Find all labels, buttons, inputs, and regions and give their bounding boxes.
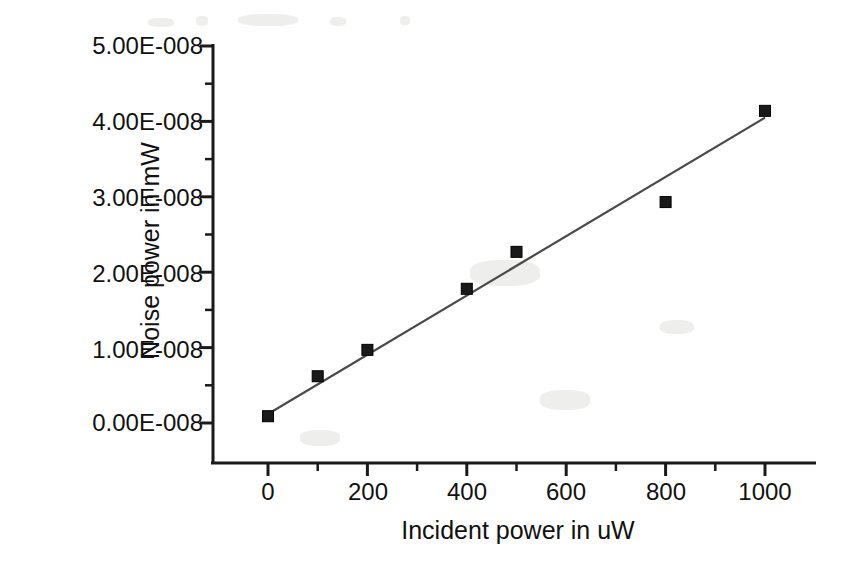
- linear-fit-line: [268, 118, 765, 414]
- data-point-marker: [461, 283, 472, 294]
- x-tick-marks: [268, 463, 765, 476]
- data-point-marker: [760, 105, 771, 116]
- plot-area: [0, 0, 846, 581]
- data-point-marker: [362, 344, 373, 355]
- data-point-marker: [312, 371, 323, 382]
- data-point-marker: [660, 197, 671, 208]
- data-point-group: [263, 105, 771, 421]
- chart-figure: Noise power in mW 5.00E-008 4.00E-008 3.…: [0, 0, 846, 581]
- y-tick-marks: [200, 46, 213, 423]
- fit-line: [268, 118, 765, 414]
- data-point-marker: [263, 411, 274, 422]
- data-point-marker: [511, 246, 522, 257]
